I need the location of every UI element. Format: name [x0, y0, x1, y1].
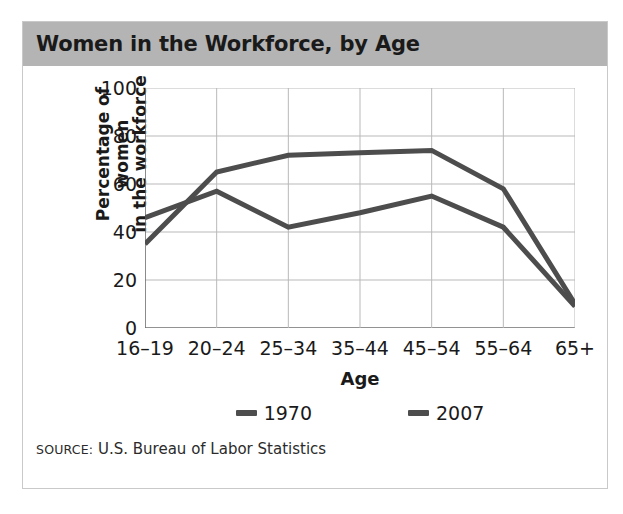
chart-title-band: Women in the Workforce, by Age: [23, 22, 607, 66]
plot-area: 020406080100 16–1920–2425–3435–4445–5455…: [145, 88, 575, 328]
y-tick-label: 0: [125, 317, 137, 339]
source-note: SOURCE: U.S. Bureau of Labor Statistics: [36, 440, 326, 458]
legend-item-2007[interactable]: 2007: [408, 402, 484, 424]
x-tick-label: 55–64: [474, 337, 532, 359]
legend-swatch-icon: [408, 410, 429, 416]
y-tick-label: 40: [113, 221, 137, 243]
source-value: U.S. Bureau of Labor Statistics: [93, 440, 326, 458]
gridlines: [145, 88, 575, 328]
y-tick-label: 60: [113, 173, 137, 195]
legend-label: 2007: [436, 402, 484, 424]
y-tick-label: 80: [113, 125, 137, 147]
x-tick-label: 16–19: [116, 337, 174, 359]
chart-legend: 19702007: [145, 402, 575, 424]
y-tick-label: 20: [113, 269, 137, 291]
line-chart-svg: [145, 88, 575, 328]
chart-figure: Women in the Workforce, by Age Percentag…: [22, 21, 608, 489]
x-axis-title: Age: [145, 368, 575, 389]
x-tick-label: 65+: [555, 337, 595, 359]
legend-swatch-icon: [236, 410, 257, 416]
page-title: Women in the Workforce, by Age: [36, 32, 420, 56]
x-tick-label: 45–54: [403, 337, 461, 359]
source-label: SOURCE:: [36, 442, 93, 457]
y-tick-label: 100: [101, 77, 137, 99]
x-tick-label: 25–34: [259, 337, 317, 359]
chart-body: Percentage of women in the workforce 020…: [23, 66, 607, 488]
y-axis-title-line1: Percentage of women: [93, 87, 131, 221]
x-tick-label: 20–24: [188, 337, 246, 359]
x-tick-label: 35–44: [331, 337, 389, 359]
chart-region: Percentage of women in the workforce 020…: [23, 66, 607, 406]
legend-label: 1970: [264, 402, 312, 424]
legend-item-1970[interactable]: 1970: [236, 402, 312, 424]
